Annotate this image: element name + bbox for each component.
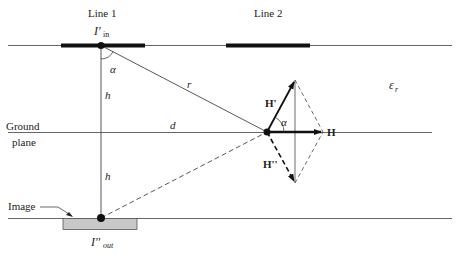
h-double-prime-label: H'': [263, 158, 278, 170]
epsilon-subscript: r: [395, 85, 399, 94]
transmission-line-diagram: Line 1 Line 2 I' in α r h d h Ground pla…: [0, 0, 458, 255]
distance-r-line: [101, 46, 267, 133]
current-out-label: I'': [90, 235, 101, 249]
r-label: r: [187, 78, 192, 90]
image-current-dot: [97, 214, 105, 222]
parallelogram-edge-bottom: [295, 132, 323, 183]
alpha-top-label: α: [110, 63, 116, 75]
current-in-label: I': [93, 24, 101, 38]
parallelogram-edge-top: [295, 80, 323, 132]
current-in-subscript: in: [103, 30, 109, 39]
current-out-subscript: out: [103, 241, 114, 250]
alpha-arc-top: [101, 52, 113, 59]
image-distance-line: [101, 132, 267, 218]
image-label: Image: [8, 200, 36, 212]
h-upper-label: h: [105, 89, 111, 101]
line2-label: Line 2: [254, 7, 282, 19]
d-label: d: [170, 119, 176, 131]
line2-conductor: [226, 44, 310, 48]
h-double-prime-vector: [267, 132, 294, 181]
line1-label: Line 1: [88, 7, 116, 19]
h-prime-label: H': [265, 97, 277, 109]
h-lower-label: h: [105, 170, 111, 182]
epsilon-label: ε: [389, 78, 394, 92]
h-label: H: [327, 126, 336, 138]
alpha-vector-label: α: [281, 116, 287, 128]
plane-label: plane: [12, 136, 36, 148]
ground-label: Ground: [6, 120, 40, 132]
line1-current-dot: [98, 42, 105, 49]
